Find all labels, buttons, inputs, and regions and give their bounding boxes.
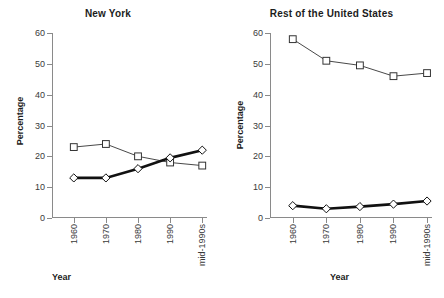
x-tick-mark [170, 218, 171, 223]
x-tick-mark [202, 218, 203, 223]
y-tick-label: 0 [258, 213, 263, 223]
y-tick-label: 30 [253, 121, 263, 131]
panel-title: Rest of the United States [224, 8, 439, 19]
y-tick-label: 40 [253, 90, 263, 100]
y-tick-label: 10 [253, 182, 263, 192]
x-tick-label: 1980 [355, 224, 365, 244]
plot-area: 0102030405060 1960197019801990mid-1990s [270, 33, 432, 218]
x-tick-label: 1970 [101, 224, 111, 244]
y-tick-label: 60 [35, 28, 45, 38]
data-point-open-square [289, 36, 296, 43]
y-tick-label: 50 [253, 59, 263, 69]
x-tick-mark [293, 218, 294, 223]
x-tick-label: 1970 [321, 224, 331, 244]
data-point-open-diamond [134, 165, 142, 173]
chart-panel-rest-of-us: Rest of the United States Percentage Yea… [222, 0, 444, 298]
x-tick-label: 1960 [69, 224, 79, 244]
y-tick-label: 20 [253, 151, 263, 161]
data-point-open-diamond [389, 200, 397, 208]
data-point-open-square [103, 141, 110, 148]
data-point-open-diamond [198, 146, 206, 154]
x-tick-mark [138, 218, 139, 223]
x-tick-label: 1980 [133, 224, 143, 244]
data-point-open-square [357, 62, 364, 69]
figure-root: New York Percentage Year 0102030405060 1… [0, 0, 444, 298]
x-tick-mark [106, 218, 107, 223]
x-tick-label: 1990 [165, 224, 175, 244]
x-tick-mark [326, 218, 327, 223]
x-axis-title: Year [330, 272, 349, 282]
data-point-open-square [135, 153, 142, 160]
panel-title: New York [8, 8, 208, 19]
series-open-square [289, 36, 430, 80]
data-point-open-diamond [102, 174, 110, 182]
y-tick-label: 50 [35, 59, 45, 69]
x-tick-mark [393, 218, 394, 223]
chart-panel-new-york: New York Percentage Year 0102030405060 1… [0, 0, 222, 298]
data-point-open-square [390, 73, 397, 80]
series-line [293, 39, 427, 76]
series-open-diamond [289, 197, 431, 213]
y-tick-label: 30 [35, 121, 45, 131]
data-point-open-diamond [423, 197, 431, 205]
x-axis-title: Year [52, 272, 71, 282]
data-point-open-square [70, 144, 77, 151]
data-point-open-diamond [289, 202, 297, 210]
y-axis-title: Percentage [15, 97, 25, 146]
y-tick-label: 20 [35, 151, 45, 161]
y-tick-label: 10 [35, 182, 45, 192]
x-tick-mark [74, 218, 75, 223]
y-tick-mark [265, 218, 270, 219]
data-point-open-square [424, 70, 431, 77]
y-axis-title: Percentage [235, 101, 245, 150]
x-tick-mark [360, 218, 361, 223]
data-point-open-diamond [322, 205, 330, 213]
series-layer [270, 33, 432, 218]
data-point-open-diamond [70, 174, 78, 182]
data-point-open-diamond [356, 202, 364, 210]
y-tick-mark [47, 218, 52, 219]
x-tick-label: mid-1990s [422, 224, 432, 266]
series-layer [52, 33, 207, 218]
x-tick-label: mid-1990s [197, 224, 207, 266]
y-tick-label: 40 [35, 90, 45, 100]
x-tick-label: 1990 [388, 224, 398, 244]
x-tick-label: 1960 [288, 224, 298, 244]
data-point-open-square [323, 57, 330, 64]
y-tick-label: 0 [40, 213, 45, 223]
x-tick-mark [427, 218, 428, 223]
data-point-open-square [199, 162, 206, 169]
plot-area: 0102030405060 1960197019801990mid-1990s [52, 33, 207, 218]
y-tick-label: 60 [253, 28, 263, 38]
